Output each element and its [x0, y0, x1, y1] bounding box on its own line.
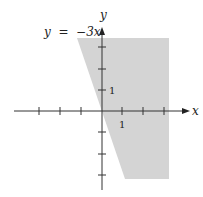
shaded-region — [77, 38, 169, 179]
inequality-graph: y = −3x y x 1 1 — [0, 0, 203, 197]
x-axis-label: x — [192, 104, 199, 118]
y-tick-label-1: 1 — [109, 85, 115, 96]
x-axis-arrow-icon — [182, 108, 190, 114]
equation-label: y = −3x — [43, 25, 101, 39]
y-axis-label: y — [99, 8, 107, 22]
x-tick-label-1: 1 — [119, 119, 125, 130]
